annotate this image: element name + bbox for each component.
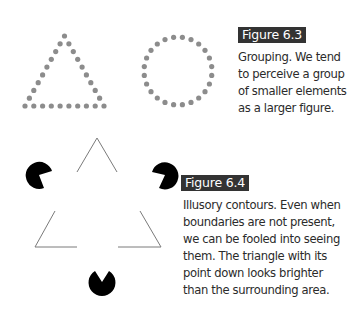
figure-6-3-caption: Grouping. We tend to perceive a group of…: [238, 49, 347, 117]
dot: [66, 103, 71, 108]
dot: [142, 73, 147, 78]
dot: [71, 49, 76, 54]
dot: [40, 103, 45, 108]
figure-6-4-label: Figure 6.4: [181, 175, 249, 191]
dot: [148, 89, 153, 94]
dot: [101, 103, 106, 108]
dot: [155, 95, 160, 100]
dot: [88, 80, 93, 85]
dot: [62, 33, 67, 38]
caption-line: point down looks brighter: [183, 265, 341, 282]
caption-line: boundaries are not present,: [183, 214, 341, 231]
dot: [36, 80, 41, 85]
dot: [188, 37, 193, 42]
dot: [44, 65, 49, 70]
dot: [144, 81, 149, 86]
dot: [196, 95, 201, 100]
dot: [196, 41, 201, 46]
figure-6-3-label: Figure 6.3: [238, 27, 306, 43]
figure-6-4-caption: Illusory contours. Even when boundaries …: [183, 197, 341, 299]
caption-line: Grouping. We tend: [238, 49, 347, 66]
dot: [84, 103, 89, 108]
dot: [202, 89, 207, 94]
pacman-top-left: [26, 162, 52, 189]
dot: [142, 64, 147, 69]
dot: [171, 35, 176, 40]
dot: [31, 88, 36, 93]
dot: [66, 41, 71, 46]
illusory-triangle-figure: [26, 138, 179, 296]
dot: [144, 55, 149, 60]
dot: [180, 102, 185, 107]
dot: [53, 49, 58, 54]
dot: [84, 72, 89, 77]
dot: [27, 96, 32, 101]
caption-line: we can be fooled into seeing: [183, 231, 341, 248]
dot: [209, 64, 214, 69]
dot: [171, 102, 176, 107]
dot: [49, 103, 54, 108]
dot: [97, 96, 102, 101]
dot: [207, 81, 212, 86]
dot: [58, 103, 63, 108]
dot: [162, 100, 167, 105]
outline-triangle-corners: [35, 138, 161, 247]
dot: [188, 100, 193, 105]
dotted-circle-figure: [142, 35, 215, 108]
dot: [31, 103, 36, 108]
dot: [40, 72, 45, 77]
dot: [49, 57, 54, 62]
dotted-triangle-figure: [22, 33, 106, 108]
dot: [80, 65, 85, 70]
dot: [148, 48, 153, 53]
pacman-bottom: [89, 271, 116, 296]
dot: [93, 88, 98, 93]
dot: [75, 103, 80, 108]
caption-line: Illusory contours. Even when: [183, 197, 341, 214]
dot: [155, 41, 160, 46]
dot: [93, 103, 98, 108]
dot: [22, 103, 27, 108]
caption-line: them. The triangle with its: [183, 248, 341, 265]
dot: [180, 35, 185, 40]
pacman-top-right: [152, 162, 178, 189]
caption-line: of smaller elements: [238, 83, 347, 100]
dot: [202, 48, 207, 53]
dot: [162, 37, 167, 42]
caption-line: to perceive a group: [238, 66, 347, 83]
dot: [75, 57, 80, 62]
dot: [58, 41, 63, 46]
caption-line: as a larger figure.: [238, 100, 347, 117]
caption-line: than the surrounding area.: [183, 282, 341, 299]
dot: [207, 55, 212, 60]
dot: [209, 73, 214, 78]
